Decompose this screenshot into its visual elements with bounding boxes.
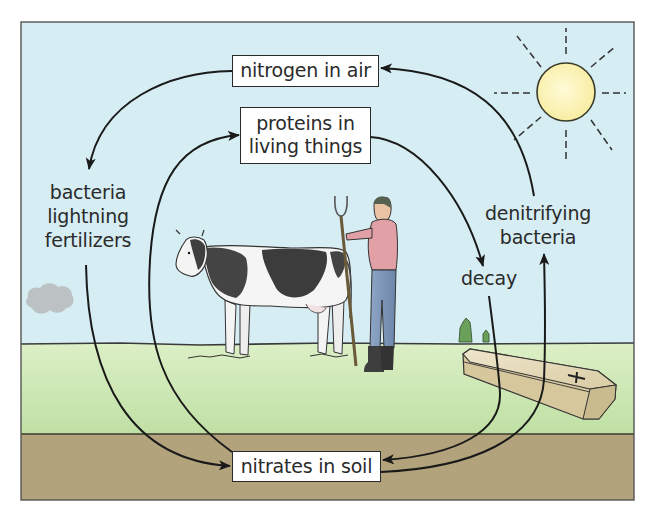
nitrogen-cycle-diagram: nitrogen in air proteins in living thing…: [0, 0, 648, 515]
bacteria-label: bacteria: [40, 180, 136, 204]
nitrogen-in-air-label: nitrogen in air: [240, 59, 371, 81]
nitrogen-in-air-box: nitrogen in air: [232, 55, 379, 87]
proteins-label-line1: proteins in: [241, 112, 370, 135]
denitrifying-label: denitrifying: [480, 201, 596, 225]
fixation-labels: bacteria lightning fertilizers: [40, 180, 136, 252]
nitrates-in-soil-label: nitrates in soil: [241, 455, 373, 477]
lightning-label: lightning: [40, 204, 136, 228]
proteins-label-line2: living things: [241, 135, 370, 158]
fertilizers-label: fertilizers: [40, 228, 136, 252]
proteins-box: proteins in living things: [240, 107, 371, 164]
nitrates-in-soil-box: nitrates in soil: [232, 451, 381, 482]
decay-label: decay: [459, 266, 519, 290]
denitrifying-labels: denitrifying bacteria: [480, 201, 596, 249]
denitrify-bacteria-label: bacteria: [480, 225, 596, 249]
